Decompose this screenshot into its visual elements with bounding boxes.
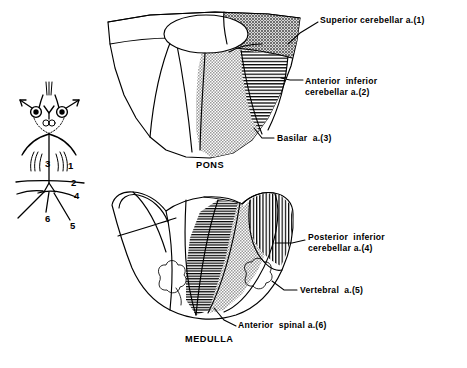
region-label-pons: PONS (196, 160, 224, 170)
label-anterior-inferior-cerebellar-line2: cerebellar a.(2) (305, 87, 370, 97)
schematic-number-3: 3 (45, 158, 50, 169)
fourth-ventricle (164, 15, 248, 53)
label-superior-cerebellar: Superior cerebellar a.(1) (320, 15, 425, 25)
medulla-cross-section (112, 192, 293, 319)
label-anterior-spinal: Anterior spinal a.(6) (238, 320, 327, 330)
schematic-number-4: 4 (74, 190, 79, 201)
schematic-number-5: 5 (70, 220, 75, 231)
region-label-medulla: MEDULLA (185, 334, 233, 344)
schematic-number-6: 6 (45, 213, 50, 224)
anatomical-figure: Superior cerebellar a.(1) Anterior infer… (0, 0, 467, 368)
pons-cross-section (108, 12, 300, 158)
label-vertebral: Vertebral a.(5) (300, 285, 363, 295)
label-posterior-inferior-cerebellar-line2: cerebellar a.(4) (308, 243, 373, 253)
schematic-number-1: 1 (68, 160, 73, 171)
label-anterior-inferior-cerebellar-line1: Anterior inferior (305, 76, 377, 86)
label-posterior-inferior-cerebellar-line1: Posterior inferior (308, 232, 385, 242)
schematic-number-2: 2 (71, 177, 76, 188)
label-basilar: Basilar a.(3) (277, 133, 332, 143)
